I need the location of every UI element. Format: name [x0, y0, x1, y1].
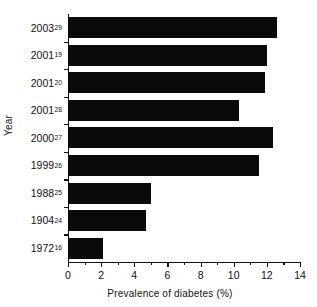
- x-axis-minor-tick-mark: [283, 262, 284, 265]
- x-axis-minor-tick-mark: [184, 262, 185, 265]
- y-axis-tick-mark: [64, 207, 69, 208]
- x-axis-minor-tick-mark: [118, 262, 119, 265]
- y-tick-year: 2001: [31, 50, 54, 61]
- bars-group: [68, 14, 300, 262]
- y-axis-title: Year: [3, 101, 14, 151]
- x-axis-tick-label: 10: [219, 269, 249, 281]
- bar[interactable]: [68, 45, 267, 66]
- y-axis-tick-label: 200120: [14, 69, 66, 97]
- y-axis-tick-mark: [64, 42, 69, 43]
- bar-slot: [68, 234, 300, 262]
- x-axis-tick-label: 8: [186, 269, 216, 281]
- bar[interactable]: [68, 17, 277, 38]
- y-tick-year: 1904: [31, 215, 54, 226]
- x-axis-tick-label: 2: [86, 269, 116, 281]
- x-axis-tick-mark: [134, 262, 135, 267]
- x-axis-tick-mark: [234, 262, 235, 267]
- bar-chart-figure: Year 20032920011920012020012820002719992…: [0, 0, 317, 307]
- y-axis-tick-mark: [64, 152, 69, 153]
- y-axis-tick-label: 200128: [14, 97, 66, 125]
- bar-slot: [68, 124, 300, 152]
- x-axis-tick-label: 14: [285, 269, 315, 281]
- x-axis-minor-tick-mark: [217, 262, 218, 265]
- x-axis-tick-label: 6: [152, 269, 182, 281]
- bar[interactable]: [68, 210, 146, 231]
- bar-slot: [68, 207, 300, 235]
- x-axis-tick-mark: [267, 262, 268, 267]
- bar[interactable]: [68, 183, 151, 204]
- x-axis-minor-tick-mark: [151, 262, 152, 265]
- x-axis-tick-mark: [300, 262, 301, 267]
- bar[interactable]: [68, 238, 103, 259]
- bar-slot: [68, 97, 300, 125]
- y-axis-tick-label: 197216: [14, 235, 66, 263]
- y-axis-tick-mark: [64, 234, 69, 235]
- bar[interactable]: [68, 155, 259, 176]
- x-axis-title: Prevalence of diabetes (%): [40, 288, 300, 299]
- y-axis-tick-mark: [64, 179, 69, 180]
- y-axis-tick-label: 200119: [14, 42, 66, 70]
- x-axis-tick-mark: [68, 262, 69, 267]
- y-axis-tick-label: 199926: [14, 152, 66, 180]
- x-axis-minor-tick-mark: [85, 262, 86, 265]
- bar-slot: [68, 69, 300, 97]
- x-axis-tick-label: 12: [252, 269, 282, 281]
- y-tick-year: 2001: [31, 78, 54, 89]
- y-tick-year: 2001: [31, 105, 54, 116]
- plot-area: 02468101214: [68, 14, 300, 262]
- bar[interactable]: [68, 127, 273, 148]
- y-axis-tick-label: 200329: [14, 14, 66, 42]
- y-tick-year: 2000: [31, 133, 54, 144]
- y-tick-year: 2003: [31, 23, 54, 34]
- y-tick-year: 1988: [31, 188, 54, 199]
- bar[interactable]: [68, 72, 265, 93]
- bar-slot: [68, 179, 300, 207]
- x-axis-tick-label: 0: [53, 269, 83, 281]
- y-tick-year: 1999: [31, 160, 54, 171]
- x-axis-minor-tick-mark: [250, 262, 251, 265]
- bar-slot: [68, 14, 300, 42]
- y-axis-tick-labels: 2003292001192001202001282000271999261988…: [14, 14, 66, 262]
- x-axis-tick-mark: [167, 262, 168, 267]
- x-axis-tick-mark: [201, 262, 202, 267]
- y-tick-year: 1972: [31, 243, 54, 254]
- bar-slot: [68, 42, 300, 70]
- y-axis-tick-label: 190424: [14, 207, 66, 235]
- x-axis-tick-label: 4: [119, 269, 149, 281]
- y-axis-tick-mark: [64, 69, 69, 70]
- bar-slot: [68, 152, 300, 180]
- bar[interactable]: [68, 100, 239, 121]
- y-axis-tick-mark: [64, 124, 69, 125]
- y-axis-tick-label: 198825: [14, 179, 66, 207]
- x-axis-tick-mark: [101, 262, 102, 267]
- y-axis-tick-mark: [64, 97, 69, 98]
- y-axis-tick-label: 200027: [14, 124, 66, 152]
